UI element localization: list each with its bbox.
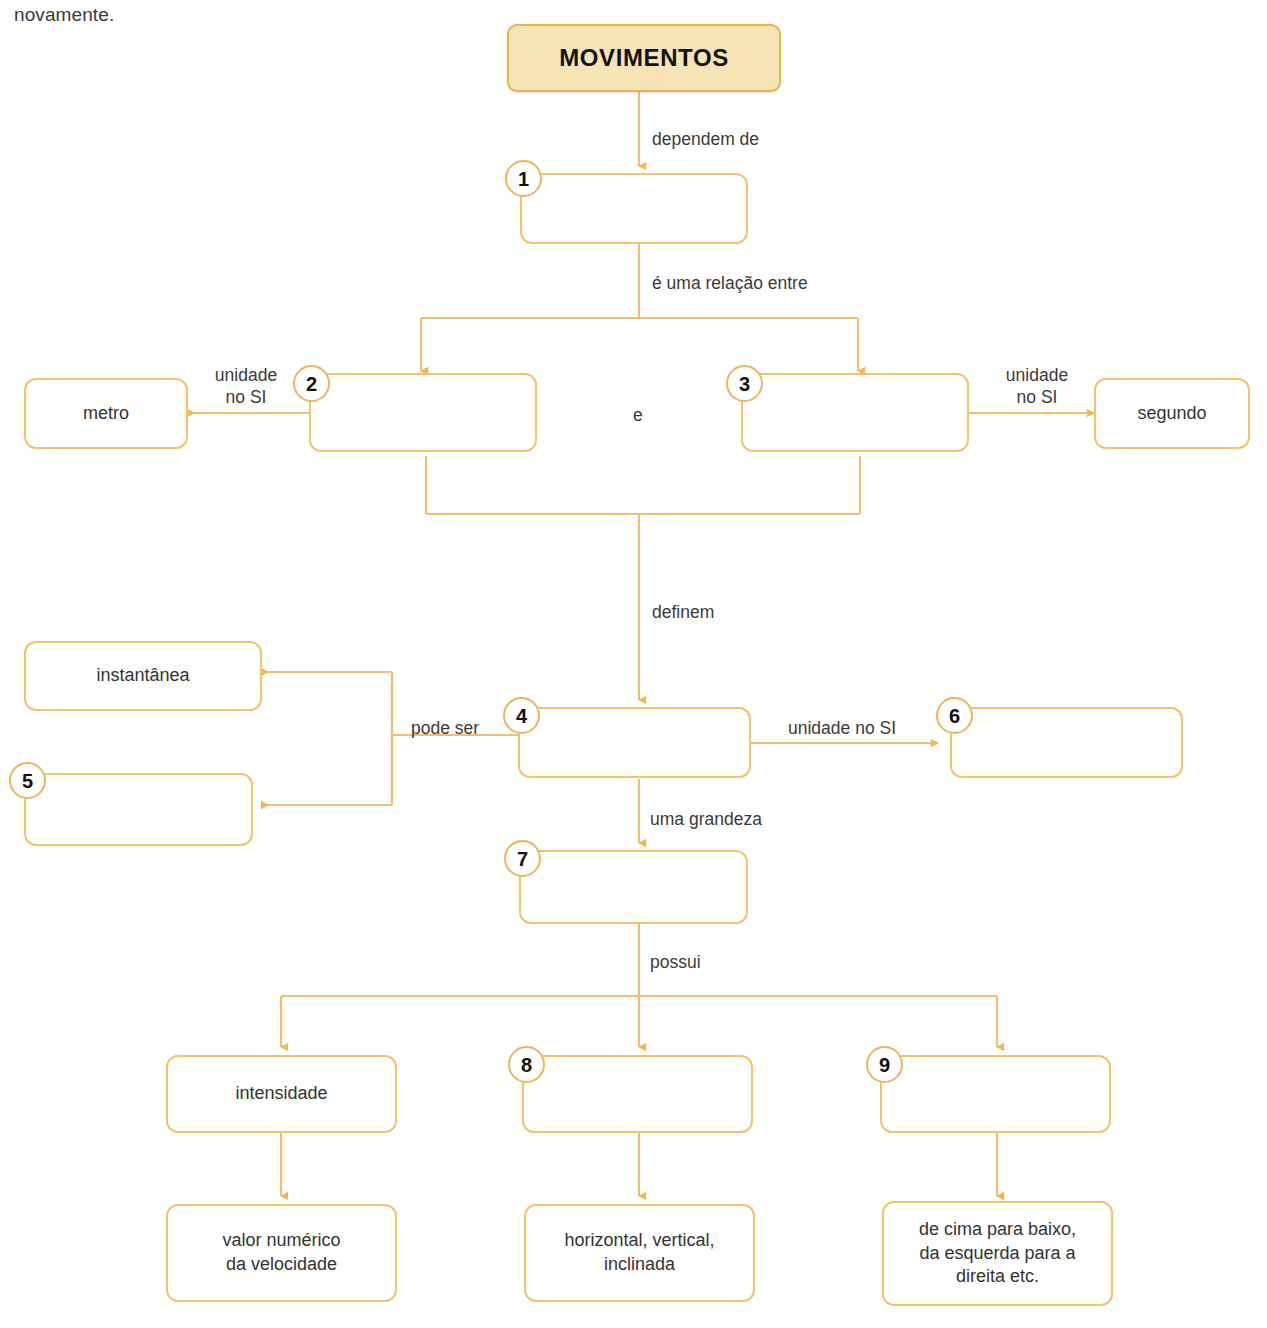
node-9[interactable] [880,1055,1111,1133]
intro-text: novamente. [14,4,114,26]
edge-label-definem: definem [652,601,714,623]
node-metro[interactable]: metro [24,378,188,449]
badge-6: 6 [936,697,973,734]
edge-label-e-uma-relacao-entre: é uma relação entre [652,272,808,294]
node-8[interactable] [522,1055,753,1133]
edge-label-possui: possui [650,951,701,973]
node-segundo[interactable]: segundo [1094,378,1250,449]
node-horizontal-vertical-inclinada[interactable]: horizontal, vertical, inclinada [524,1204,755,1302]
badge-2: 2 [293,365,330,402]
node-de-cima-para-baixo[interactable]: de cima para baixo, da esquerda para a d… [882,1201,1113,1306]
node-intensidade[interactable]: intensidade [166,1055,397,1133]
edge-label-unidade-no-si-segundo: unidade no SI [989,364,1085,409]
node-7[interactable] [519,850,748,924]
node-4[interactable] [518,707,751,778]
node-valor-numerico[interactable]: valor numérico da velocidade [166,1204,397,1302]
badge-1: 1 [505,160,542,197]
badge-9: 9 [866,1046,903,1083]
badge-3: 3 [726,365,763,402]
edge-label-unidade-no-si-6: unidade no SI [788,717,896,739]
concept-map-page: novamente. [0,0,1267,1328]
node-3[interactable] [741,373,969,452]
badge-4: 4 [503,697,540,734]
node-movimentos[interactable]: MOVIMENTOS [507,24,781,92]
node-instantanea[interactable]: instantânea [24,641,262,711]
node-6[interactable] [950,707,1183,778]
node-1[interactable] [520,173,748,244]
node-2[interactable] [309,373,537,452]
edge-label-dependem-de: dependem de [652,128,759,150]
edge-label-unidade-no-si-metro: unidade no SI [198,364,294,409]
badge-8: 8 [508,1046,545,1083]
node-5[interactable] [24,773,253,846]
edge-label-pode-ser: pode ser [411,717,479,739]
edge-label-uma-grandeza: uma grandeza [650,808,762,830]
badge-5: 5 [9,762,46,799]
edge-label-e: e [633,404,643,426]
badge-7: 7 [504,840,541,877]
